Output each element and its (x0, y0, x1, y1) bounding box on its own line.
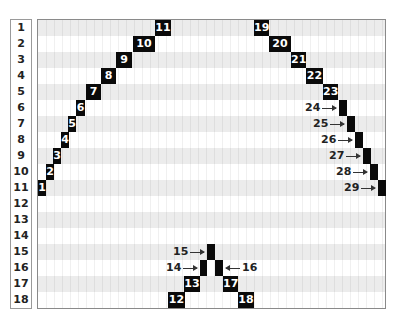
block-3: 3 (53, 148, 61, 164)
row-label: 6 (11, 100, 31, 116)
grid-line (142, 20, 143, 308)
grid-line (270, 20, 271, 308)
block-14 (200, 260, 207, 276)
callout-label: 26 (321, 133, 336, 146)
block-11: 11 (155, 20, 171, 36)
arrow-right-icon (190, 252, 204, 253)
callout-label: 16 (242, 261, 257, 274)
grid-line (78, 20, 79, 308)
block-8: 8 (101, 68, 116, 84)
grid-line (102, 20, 103, 308)
row-label: 12 (11, 196, 31, 212)
grid-line (326, 20, 327, 308)
grid-line (278, 20, 279, 308)
callout-label: 15 (173, 245, 188, 258)
callout-25: 25 (313, 116, 346, 132)
row-band (38, 228, 385, 244)
row-label: 10 (11, 164, 31, 180)
block-5: 5 (68, 116, 76, 132)
row-band (38, 292, 385, 308)
grid-line (134, 20, 135, 308)
grid-line (158, 20, 159, 308)
block-12: 12 (168, 292, 185, 308)
arrow-right-icon (361, 188, 375, 189)
arrow-right-icon (346, 156, 360, 157)
grid-line (318, 20, 319, 308)
callout-16: 16 (224, 260, 257, 276)
block-29 (378, 180, 386, 196)
callout-label: 29 (344, 181, 359, 194)
arrow-right-icon (322, 108, 336, 109)
callout-label: 14 (166, 261, 181, 274)
grid-line (54, 20, 55, 308)
arrow-right-icon (338, 140, 352, 141)
block-7: 7 (86, 84, 101, 100)
callout-27: 27 (329, 148, 362, 164)
callout-26: 26 (321, 132, 354, 148)
block-28 (370, 164, 378, 180)
block-27 (363, 148, 371, 164)
callout-label: 25 (313, 117, 328, 130)
grid-line (334, 20, 335, 308)
grid-line (62, 20, 63, 308)
grid-line (262, 20, 263, 308)
callout-label: 28 (336, 165, 351, 178)
row-band (38, 36, 385, 52)
grid-line (110, 20, 111, 308)
block-17: 17 (223, 276, 238, 292)
grid-line (150, 20, 151, 308)
arrow-right-icon (330, 124, 344, 125)
row-label: 11 (11, 180, 31, 196)
row-label: 1 (11, 20, 31, 36)
callout-14: 14 (166, 260, 199, 276)
row-band (38, 196, 385, 212)
schedule-grid: 1234567891011121314151617181920212223242… (37, 19, 386, 309)
block-13: 13 (184, 276, 200, 292)
block-20: 20 (269, 36, 291, 52)
block-22: 22 (306, 68, 323, 84)
row-label: 18 (11, 292, 31, 308)
arrow-right-icon (353, 172, 367, 173)
grid-line (310, 20, 311, 308)
grid-line (382, 20, 383, 308)
row-label: 15 (11, 244, 31, 260)
row-label: 3 (11, 52, 31, 68)
block-25 (347, 116, 355, 132)
callout-label: 24 (305, 101, 320, 114)
row-label-column: 123456789101112131415161718 (10, 19, 32, 309)
callout-label: 27 (329, 149, 344, 162)
block-10: 10 (133, 36, 155, 52)
grid-line (70, 20, 71, 308)
block-1: 1 (38, 180, 46, 196)
row-label: 8 (11, 132, 31, 148)
row-band (38, 260, 385, 276)
row-band (38, 20, 385, 36)
row-label: 16 (11, 260, 31, 276)
block-4: 4 (61, 132, 69, 148)
arrow-right-icon (183, 268, 197, 269)
arrow-left-icon (226, 268, 240, 269)
row-band (38, 164, 385, 180)
row-label: 9 (11, 148, 31, 164)
row-label: 17 (11, 276, 31, 292)
block-16 (215, 260, 223, 276)
row-label: 5 (11, 84, 31, 100)
row-label: 13 (11, 212, 31, 228)
block-18: 18 (238, 292, 254, 308)
row-label: 2 (11, 36, 31, 52)
row-band (38, 52, 385, 68)
row-band (38, 276, 385, 292)
row-label: 14 (11, 228, 31, 244)
row-label: 4 (11, 68, 31, 84)
block-19: 19 (254, 20, 269, 36)
row-band (38, 68, 385, 84)
callout-15: 15 (173, 244, 206, 260)
block-21: 21 (291, 52, 306, 68)
block-15 (207, 244, 215, 260)
row-label: 7 (11, 116, 31, 132)
block-2: 2 (46, 164, 54, 180)
block-9: 9 (116, 52, 132, 68)
callout-29: 29 (344, 180, 377, 196)
row-band (38, 212, 385, 228)
grid-line (86, 20, 87, 308)
